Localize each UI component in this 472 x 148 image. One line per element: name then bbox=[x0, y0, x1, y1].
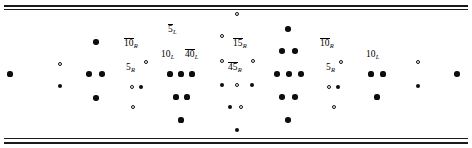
node-center-top bbox=[235, 12, 239, 16]
node-c1-mid-c bbox=[189, 71, 194, 76]
node-center-r4-c bbox=[250, 83, 255, 88]
label-15bar-R-subscript: R bbox=[243, 42, 247, 49]
weight-diagram-figure: 5L10R15R10R10L40L10L5R45R5R bbox=[0, 0, 472, 148]
label-10bar-R-right-subscript: R bbox=[330, 42, 334, 49]
node-l3-mid-open bbox=[130, 85, 134, 89]
label-10-L-number: 10 bbox=[161, 49, 171, 59]
label-5-R-left: 5R bbox=[126, 57, 135, 74]
node-l2-mid-a bbox=[86, 71, 92, 77]
node-l2-top bbox=[93, 39, 99, 45]
node-l1-down bbox=[58, 84, 63, 89]
label-10-L-right: 10L bbox=[366, 44, 379, 61]
label-5-R-right-subscript: R bbox=[331, 66, 335, 73]
label-5-R-right: 5R bbox=[326, 57, 335, 74]
label-40bar-L-number: 40 bbox=[185, 49, 195, 60]
node-r1-bot bbox=[285, 117, 291, 123]
node-far-right bbox=[454, 71, 460, 77]
node-r1-r2-a bbox=[279, 48, 285, 54]
label-5bar-L-subscript: L bbox=[173, 28, 177, 35]
node-center-r5-b bbox=[239, 105, 243, 109]
node-c1-mid-b bbox=[178, 71, 183, 76]
label-10-L-subscript: L bbox=[171, 53, 175, 60]
node-c1-low-b bbox=[184, 94, 189, 99]
node-r1-r4-b bbox=[292, 94, 298, 100]
node-r1-r3-c bbox=[298, 71, 304, 77]
label-10bar-R-right-number: 10 bbox=[320, 38, 330, 49]
label-40bar-L: 40L bbox=[185, 44, 198, 61]
label-10-L: 10L bbox=[161, 44, 174, 61]
node-c1-low-a bbox=[173, 94, 178, 99]
bottom-rule-inner bbox=[4, 138, 468, 139]
label-10bar-R-right: 10R bbox=[320, 33, 334, 50]
label-5-R-left-subscript: R bbox=[131, 66, 135, 73]
label-15bar-R: 15R bbox=[233, 33, 247, 50]
node-center-bot bbox=[235, 128, 240, 133]
node-r1-top bbox=[285, 26, 291, 32]
node-r2-mid-open bbox=[327, 85, 331, 89]
node-c1-mid-a bbox=[167, 71, 172, 76]
node-l2-mid-b bbox=[99, 71, 105, 77]
node-r2-bot bbox=[332, 105, 336, 109]
bottom-rule-outer bbox=[4, 142, 468, 144]
node-c1-bot bbox=[178, 117, 183, 122]
top-rule-outer bbox=[4, 5, 468, 7]
node-r4-down bbox=[416, 84, 421, 89]
label-10bar-R-left: 10R bbox=[124, 33, 138, 50]
node-r3-bot bbox=[374, 94, 379, 99]
node-center-r2 bbox=[220, 34, 224, 38]
node-center-r5-a bbox=[228, 105, 233, 110]
node-r4-up bbox=[416, 60, 420, 64]
node-r2-mid-fill bbox=[336, 85, 341, 90]
node-r3-mid-b bbox=[380, 71, 385, 76]
node-l3-mid-fill bbox=[139, 85, 144, 90]
node-r1-r3-a bbox=[274, 71, 280, 77]
node-center-r4-b bbox=[235, 83, 239, 87]
node-r1-r2-b bbox=[292, 48, 298, 54]
label-45bar-R-subscript: R bbox=[238, 66, 242, 73]
label-45bar-R: 45R bbox=[228, 57, 242, 74]
node-center-r3-b bbox=[251, 59, 255, 63]
node-l1-up bbox=[58, 62, 62, 66]
label-10bar-R-left-number: 10 bbox=[124, 38, 134, 49]
node-center-r3-a bbox=[220, 59, 224, 63]
label-15bar-R-number: 15 bbox=[233, 38, 243, 49]
node-l3-up bbox=[144, 60, 148, 64]
label-10-L-right-number: 10 bbox=[366, 49, 376, 59]
node-l3-bot bbox=[131, 105, 135, 109]
label-45bar-R-number: 45 bbox=[228, 62, 238, 73]
label-10bar-R-left-subscript: R bbox=[134, 42, 138, 49]
top-rule-inner bbox=[4, 9, 468, 10]
node-r2-up bbox=[339, 60, 343, 64]
node-far-left bbox=[7, 71, 12, 76]
node-l2-bot bbox=[93, 95, 99, 101]
node-r1-r3-b bbox=[286, 71, 292, 77]
label-5bar-L: 5L bbox=[168, 19, 177, 36]
label-40bar-L-subscript: L bbox=[195, 53, 199, 60]
node-r1-r4-a bbox=[279, 94, 285, 100]
label-10-L-right-subscript: L bbox=[376, 53, 380, 60]
node-center-r4-a bbox=[220, 83, 225, 88]
node-r3-mid-a bbox=[368, 71, 373, 76]
